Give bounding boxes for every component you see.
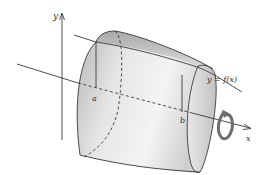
x-axis-left xyxy=(17,64,78,83)
curve-label: y = f(x) xyxy=(206,75,237,84)
rotation-arrow-icon xyxy=(218,110,232,139)
solid-of-revolution-diagram: y x a b y = f(x) xyxy=(0,0,258,175)
y-axis xyxy=(60,13,65,140)
curve-left xyxy=(74,35,96,42)
label-a: a xyxy=(92,94,97,103)
x-axis-label: x xyxy=(246,134,251,143)
label-b: b xyxy=(180,116,185,125)
y-axis-label: y xyxy=(52,11,59,21)
